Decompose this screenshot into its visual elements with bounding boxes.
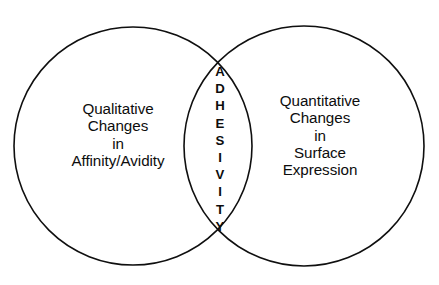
left-set-label: Qualitative Changes in Affinity/Avidity (14, 100, 222, 169)
intersection-letter-2: D (204, 80, 236, 97)
intersection-letter-1: A (204, 63, 236, 80)
intersection-letter-7: V (204, 166, 236, 183)
intersection-letter-8: I (204, 183, 236, 200)
intersection-letter-10: Y (204, 218, 236, 235)
left-set-label-line-2: Changes (14, 117, 222, 134)
intersection-letter-9: T (204, 201, 236, 218)
right-set-label-line-1: Quantitative (240, 92, 400, 109)
right-set-label-line-4: Surface (240, 144, 400, 161)
intersection-letter-4: E (204, 115, 236, 132)
left-set-label-line-4: Affinity/Avidity (14, 152, 222, 169)
right-set-label: Quantitative Changes in Surface Expressi… (240, 92, 400, 179)
intersection-letter-6: I (204, 149, 236, 166)
intersection-letter-3: H (204, 97, 236, 114)
venn-diagram-figure: Qualitative Changes in Affinity/Avidity … (0, 0, 439, 285)
left-set-label-line-3: in (14, 135, 222, 152)
right-set-label-line-3: in (240, 127, 400, 144)
right-set-label-line-5: Expression (240, 161, 400, 178)
intersection-letter-5: S (204, 132, 236, 149)
left-set-label-line-1: Qualitative (14, 100, 222, 117)
intersection-label-adhesivity: A D H E S I V I T Y (204, 63, 236, 235)
right-set-label-line-2: Changes (240, 109, 400, 126)
